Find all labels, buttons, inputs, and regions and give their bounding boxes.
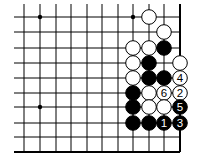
- black-stone-move-3: 3: [173, 116, 188, 131]
- black-stone-icon: [157, 71, 172, 86]
- white-stone: [126, 41, 141, 56]
- black-stone: [142, 56, 157, 71]
- black-stone: [157, 71, 172, 86]
- move-number-label: 5: [177, 101, 183, 113]
- black-stone-icon: [126, 116, 141, 131]
- black-stone-icon: [157, 41, 172, 56]
- stones-layer: 462513: [126, 10, 188, 131]
- black-stone-icon: [142, 71, 157, 86]
- go-board: 462513: [0, 0, 198, 168]
- black-stone-move-1: 1: [157, 116, 172, 131]
- black-stone: [126, 86, 141, 101]
- white-stone-icon: [142, 100, 157, 115]
- star-point-icon: [38, 15, 42, 19]
- white-stone-icon: [126, 41, 141, 56]
- white-stone-icon: [142, 10, 157, 25]
- black-stone: [157, 41, 172, 56]
- move-number-label: 2: [177, 87, 183, 99]
- white-stone: [157, 100, 172, 115]
- white-stone: [142, 41, 157, 56]
- white-stone: [142, 100, 157, 115]
- black-stone: [142, 71, 157, 86]
- white-stone-icon: [157, 25, 172, 40]
- move-number-label: 1: [161, 117, 167, 129]
- star-point-icon: [131, 15, 135, 19]
- black-stone: [126, 116, 141, 131]
- black-stone-icon: [126, 86, 141, 101]
- white-stone-icon: [126, 71, 141, 86]
- white-stone-icon: [173, 56, 188, 71]
- black-stone-move-5: 5: [173, 100, 188, 115]
- move-number-label: 3: [177, 117, 183, 129]
- black-stone-icon: [142, 116, 157, 131]
- white-stone-icon: [126, 56, 141, 71]
- white-stone-icon: [142, 41, 157, 56]
- white-stone: [142, 86, 157, 101]
- white-stone: [126, 71, 141, 86]
- white-stone-move-2: 2: [173, 86, 188, 101]
- white-stone: [173, 56, 188, 71]
- black-stone-icon: [126, 100, 141, 115]
- star-point-icon: [38, 105, 42, 109]
- white-stone: [142, 10, 157, 25]
- black-stone-icon: [142, 56, 157, 71]
- white-stone-move-4: 4: [173, 71, 188, 86]
- black-stone: [126, 100, 141, 115]
- white-stone: [126, 56, 141, 71]
- white-stone-icon: [157, 100, 172, 115]
- white-stone-move-6: 6: [157, 86, 172, 101]
- move-number-label: 4: [177, 72, 184, 84]
- move-number-label: 6: [161, 87, 167, 99]
- black-stone: [142, 116, 157, 131]
- white-stone-icon: [142, 86, 157, 101]
- white-stone: [157, 25, 172, 40]
